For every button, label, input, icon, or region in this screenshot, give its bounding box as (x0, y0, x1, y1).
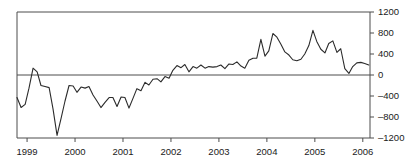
x-tick-label: 2002 (160, 146, 181, 157)
y-tick-label: 0 (378, 69, 383, 80)
x-tick-label: 2004 (256, 146, 277, 157)
plot-area (17, 12, 374, 142)
x-axis-tick-marks (27, 138, 363, 142)
x-tick-label: 2000 (64, 146, 85, 157)
y-axis-tick-marks (370, 12, 374, 138)
x-tick-label: 2003 (208, 146, 229, 157)
y-tick-label: –400 (378, 90, 399, 101)
x-tick-label: 2001 (112, 146, 133, 157)
y-tick-label: 400 (378, 48, 394, 59)
y-tick-label: –1200 (378, 132, 404, 143)
chart-container: –1200–800–40004008001200 199920002001200… (0, 0, 417, 167)
line-chart: –1200–800–40004008001200 199920002001200… (0, 0, 417, 167)
y-tick-label: –800 (378, 111, 399, 122)
x-tick-label: 2006 (352, 146, 373, 157)
y-axis-labels: –1200–800–40004008001200 (378, 6, 404, 143)
x-axis-labels: 19992000200120022003200420052006 (17, 146, 374, 157)
y-tick-label: 1200 (378, 6, 399, 17)
x-tick-label: 1999 (17, 146, 38, 157)
x-tick-label: 2005 (304, 146, 325, 157)
y-tick-label: 800 (378, 27, 394, 38)
